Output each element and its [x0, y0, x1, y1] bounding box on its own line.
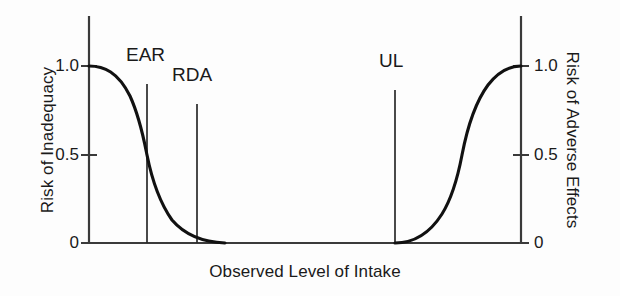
left-axis-title: Risk of Inadequacy: [38, 30, 58, 250]
chart-plot-area: [0, 0, 620, 296]
rda-marker-label: RDA: [172, 64, 212, 86]
risk-of-adverse-effects-curve: [395, 66, 521, 243]
risk-of-inadequacy-curve: [89, 66, 225, 243]
dri-risk-curve-figure: 1.0 0.5 0 1.0 0.5 0 EAR RDA UL Risk of I…: [0, 0, 620, 296]
x-axis-title: Observed Level of Intake: [89, 262, 521, 282]
ear-marker-label: EAR: [126, 44, 165, 66]
right-axis-title: Risk of Adverse Effects: [562, 30, 582, 250]
ul-marker-label: UL: [379, 50, 403, 72]
